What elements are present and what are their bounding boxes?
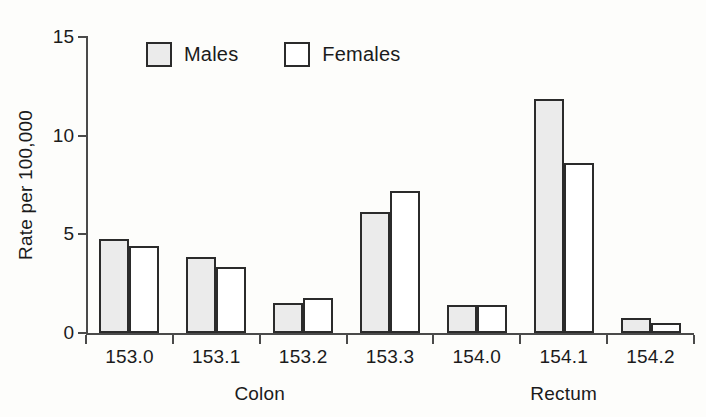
bar-males-153.0 [99,239,129,333]
bar-chart: Rate per 100,000 051015 153.0153.1153.21… [0,0,706,417]
group-label-colon: Colon [234,383,285,405]
x-axis-tick [606,335,608,344]
group-label-rectum: Rectum [530,383,597,405]
category-label-153.1: 153.1 [192,346,241,368]
y-axis-tick-label: 5 [34,224,74,243]
bar-females-153.1 [216,267,246,333]
x-axis-tick [85,335,87,344]
bar-females-154.0 [477,305,507,333]
bar-males-153.3 [360,212,390,333]
plot-area [86,37,694,333]
y-axis-title: Rate per 100,000 [10,35,42,335]
bar-females-153.2 [303,298,333,333]
filled-gray-square-icon [146,42,172,67]
bar-females-154.1 [564,163,594,333]
y-axis-tick-label: 10 [34,126,74,145]
bar-males-154.0 [447,305,477,333]
category-label-154.0: 154.0 [453,346,502,368]
chart-legend: Males Females [146,42,400,67]
category-label-153.3: 153.3 [366,346,415,368]
category-label-154.1: 154.1 [539,346,588,368]
bar-males-153.1 [186,257,216,333]
legend-item-females: Females [284,42,400,67]
bar-females-153.3 [390,191,420,333]
x-axis-tick [346,335,348,344]
y-axis-tick-label: 0 [34,323,74,342]
bar-females-154.2 [651,323,681,333]
legend-label-males: Males [184,43,238,66]
bar-males-154.2 [621,318,651,333]
x-axis-tick [693,335,695,344]
empty-white-square-icon [284,42,310,67]
bar-males-153.2 [273,303,303,333]
category-label-153.0: 153.0 [105,346,154,368]
legend-label-females: Females [322,43,400,66]
x-axis-line [86,333,694,335]
legend-item-males: Males [146,42,238,67]
x-axis-tick [519,335,521,344]
y-axis-tick-label: 15 [34,27,74,46]
x-axis-tick [172,335,174,344]
category-label-153.2: 153.2 [279,346,328,368]
bar-females-153.0 [129,246,159,333]
category-label-154.2: 154.2 [626,346,675,368]
x-axis-tick [432,335,434,344]
bar-males-154.1 [534,99,564,333]
x-axis-tick [259,335,261,344]
